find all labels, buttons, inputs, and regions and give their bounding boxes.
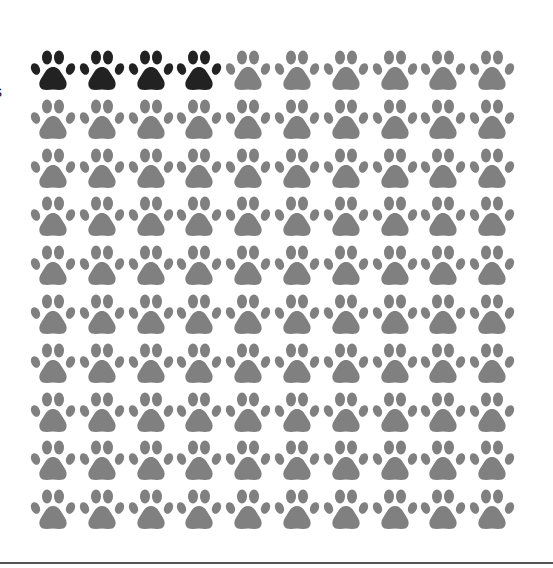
paw-print-icon [176, 245, 222, 286]
paw-print-icon [79, 196, 125, 237]
paw-print-icon [323, 148, 369, 189]
paw-print-icon-highlighted [176, 50, 222, 91]
paw-print-icon [225, 343, 271, 384]
paw-print-icon [372, 196, 418, 237]
paw-print-icon [372, 245, 418, 286]
paw-print-icon [176, 440, 222, 481]
paw-print-icon [469, 99, 515, 140]
bottom-rule [0, 562, 553, 564]
paw-print-icon [30, 392, 76, 433]
paw-print-icon [128, 343, 174, 384]
paw-print-icon [30, 245, 76, 286]
paw-print-icon [469, 294, 515, 335]
paw-print-icon [420, 392, 466, 433]
paw-print-icon [323, 294, 369, 335]
paw-print-icon [225, 294, 271, 335]
cropped-axis-label: s [0, 84, 2, 100]
paw-print-icon-highlighted [128, 50, 174, 91]
paw-print-icon [79, 245, 125, 286]
paw-print-icon [274, 392, 320, 433]
paw-print-icon [30, 196, 76, 237]
paw-print-icon-highlighted [30, 50, 76, 91]
paw-print-icon [469, 392, 515, 433]
paw-print-icon [274, 50, 320, 91]
paw-print-icon [274, 440, 320, 481]
paw-print-icon [372, 294, 418, 335]
paw-print-icon [30, 148, 76, 189]
paw-print-icon [176, 294, 222, 335]
paw-print-icon [79, 440, 125, 481]
paw-print-icon [323, 489, 369, 530]
paw-print-icon [372, 343, 418, 384]
paw-print-icon [420, 440, 466, 481]
paw-print-icon [128, 245, 174, 286]
paw-print-icon [469, 148, 515, 189]
paw-print-icon [420, 99, 466, 140]
paw-print-icon [323, 440, 369, 481]
paw-print-icon [420, 294, 466, 335]
paw-print-icon [372, 50, 418, 91]
paw-print-icon [372, 148, 418, 189]
paw-print-icon [128, 294, 174, 335]
paw-print-icon [225, 392, 271, 433]
paw-print-icon [128, 489, 174, 530]
pictograph-grid [30, 50, 520, 532]
paw-print-icon [176, 489, 222, 530]
paw-print-icon [323, 343, 369, 384]
paw-print-icon [30, 343, 76, 384]
paw-print-icon [79, 99, 125, 140]
paw-print-icon [225, 99, 271, 140]
paw-print-icon [79, 148, 125, 189]
paw-print-icon [128, 196, 174, 237]
paw-print-icon [128, 148, 174, 189]
paw-print-icon [30, 99, 76, 140]
paw-print-icon [420, 148, 466, 189]
paw-print-icon [30, 440, 76, 481]
paw-print-icon [420, 343, 466, 384]
paw-print-icon [469, 489, 515, 530]
paw-print-icon [420, 489, 466, 530]
paw-print-icon [225, 50, 271, 91]
paw-print-icon [323, 50, 369, 91]
paw-print-icon [225, 148, 271, 189]
paw-print-icon [372, 489, 418, 530]
paw-print-icon [225, 489, 271, 530]
paw-print-icon [469, 440, 515, 481]
paw-print-icon [469, 50, 515, 91]
paw-print-icon [372, 440, 418, 481]
paw-print-icon [323, 196, 369, 237]
paw-print-icon [128, 392, 174, 433]
paw-print-icon [469, 343, 515, 384]
paw-print-icon [274, 245, 320, 286]
paw-print-icon [274, 99, 320, 140]
paw-print-icon [420, 50, 466, 91]
paw-print-icon [79, 392, 125, 433]
paw-print-icon [372, 99, 418, 140]
paw-print-icon [225, 196, 271, 237]
paw-print-icon [225, 245, 271, 286]
paw-print-icon [176, 343, 222, 384]
paw-print-icon [274, 489, 320, 530]
paw-print-icon [30, 294, 76, 335]
paw-print-icon [469, 245, 515, 286]
paw-print-icon [128, 440, 174, 481]
paw-print-icon [323, 245, 369, 286]
paw-print-icon [79, 343, 125, 384]
paw-print-icon [469, 196, 515, 237]
paw-print-icon [274, 196, 320, 237]
paw-print-icon [420, 245, 466, 286]
paw-print-icon [79, 489, 125, 530]
paw-print-icon [176, 392, 222, 433]
paw-print-icon [176, 148, 222, 189]
paw-print-icon [420, 196, 466, 237]
paw-print-icon [323, 392, 369, 433]
paw-print-icon [274, 343, 320, 384]
paw-print-icon [176, 99, 222, 140]
paw-print-icon [323, 99, 369, 140]
paw-print-icon [176, 196, 222, 237]
paw-print-icon-highlighted [79, 50, 125, 91]
paw-print-icon [30, 489, 76, 530]
paw-print-icon [225, 440, 271, 481]
paw-print-icon [128, 99, 174, 140]
paw-print-icon [372, 392, 418, 433]
